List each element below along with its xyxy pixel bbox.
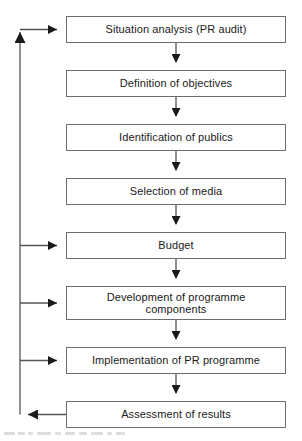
flowchart-connectors: [0, 0, 302, 441]
node-label-selection-of-media: Selection of media: [126, 185, 226, 198]
node-identification-of-publics[interactable]: Identification of publics: [66, 124, 286, 151]
node-label-definition-of-objectives: Definition of objectives: [116, 77, 236, 90]
node-label-development-of-programme-components: Development of programme components: [103, 291, 250, 316]
node-situation-analysis[interactable]: Situation analysis (PR audit): [66, 16, 286, 43]
node-definition-of-objectives[interactable]: Definition of objectives: [66, 70, 286, 97]
node-implementation-of-pr-programme[interactable]: Implementation of PR programme: [66, 347, 286, 374]
node-selection-of-media[interactable]: Selection of media: [66, 178, 286, 205]
node-budget[interactable]: Budget: [66, 232, 286, 259]
node-label-budget: Budget: [154, 239, 197, 252]
node-label-implementation-of-pr-programme: Implementation of PR programme: [88, 354, 264, 367]
node-label-situation-analysis: Situation analysis (PR audit): [101, 23, 250, 36]
node-label-assessment-of-results: Assessment of results: [117, 408, 235, 421]
node-label-identification-of-publics: Identification of publics: [115, 131, 237, 144]
node-development-of-programme-components[interactable]: Development of programme components: [66, 286, 286, 320]
node-assessment-of-results[interactable]: Assessment of results: [66, 401, 286, 428]
flowchart-diagram: Situation analysis (PR audit) Definition…: [0, 0, 302, 441]
